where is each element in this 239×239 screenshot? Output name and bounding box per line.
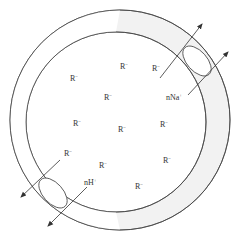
ion-exchange-bead-diagram: R− R− R− R− R− R− R− R− R− R− R− nNa+ nH… (0, 0, 239, 239)
